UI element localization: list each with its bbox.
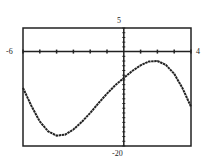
function-curve (23, 61, 191, 136)
xmax-label: 4 (196, 47, 200, 56)
axes (23, 28, 191, 146)
viewing-window-frame (23, 28, 191, 146)
ymax-label: 5 (117, 16, 121, 25)
chart-canvas (0, 0, 211, 164)
ymin-label: -20 (112, 149, 123, 158)
xmin-label: -6 (6, 47, 13, 56)
